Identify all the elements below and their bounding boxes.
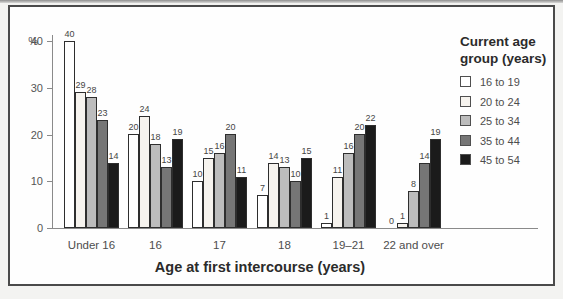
legend-entries: 16 to 1920 to 2425 to 3435 to 4445 to 54: [460, 76, 555, 166]
bar: [419, 163, 430, 228]
bar-value-label: 22: [360, 113, 382, 124]
bar: [203, 158, 214, 228]
legend-label: 16 to 19: [480, 76, 520, 88]
bar: [192, 181, 203, 228]
legend-entry: 45 to 54: [460, 154, 555, 166]
bar: [290, 181, 301, 228]
bar: [161, 167, 172, 228]
bar: [236, 177, 247, 228]
x-axis-title: Age at first intercourse (years): [105, 259, 415, 275]
bar: [128, 134, 139, 228]
y-tick-mark: [47, 135, 53, 136]
bar: [64, 41, 75, 228]
bar: [225, 134, 236, 228]
legend-swatch: [460, 115, 471, 126]
legend-swatch: [460, 96, 471, 107]
y-tick-label: 10: [12, 174, 43, 188]
legend-label: 20 to 24: [480, 96, 520, 108]
y-tick-label: 40: [12, 34, 43, 48]
bar-value-label: 20: [220, 122, 242, 133]
figure-frame: % 010203040 4029282314202418131910151620…: [8, 5, 555, 286]
bar: [214, 153, 225, 228]
legend-swatch: [460, 76, 471, 87]
bar-value-label: 14: [103, 151, 125, 162]
y-tick-label: 0: [12, 221, 43, 235]
legend-entry: 16 to 19: [460, 76, 555, 88]
bar: [172, 139, 183, 228]
bar: [97, 120, 108, 228]
bar-value-label: 13: [274, 155, 296, 166]
legend-label: 35 to 44: [480, 135, 520, 147]
bar-value-label: 11: [231, 165, 253, 176]
y-tick-mark: [47, 181, 53, 182]
bar-value-label: 19: [425, 127, 447, 138]
scanned-figure-page: % 010203040 4029282314202418131910151620…: [0, 0, 563, 299]
x-axis-baseline: [52, 228, 538, 229]
bar: [321, 223, 332, 228]
bar-value-label: 15: [296, 146, 318, 157]
legend-title: Current age group (years): [460, 33, 555, 67]
bar-value-label: 19: [167, 127, 189, 138]
bar: [397, 223, 408, 228]
bar-value-label: 18: [145, 132, 167, 143]
bar: [430, 139, 441, 228]
bar: [257, 195, 268, 228]
legend-title-line-2: group (years): [460, 50, 555, 67]
bar: [108, 163, 119, 228]
bar-value-label: 40: [59, 29, 81, 40]
bar: [408, 191, 419, 228]
bar: [365, 125, 376, 228]
legend-entry: 20 to 24: [460, 96, 555, 108]
category-label: 22 and over: [369, 239, 459, 251]
bar: [343, 153, 354, 228]
y-tick-mark: [47, 88, 53, 89]
bar: [75, 92, 86, 228]
legend-label: 25 to 34: [480, 115, 520, 127]
legend-title-line-1: Current age: [460, 33, 555, 50]
y-tick-mark: [47, 41, 53, 42]
bar: [301, 158, 312, 228]
y-tick-label: 20: [12, 128, 43, 142]
bar-value-label: 28: [81, 85, 103, 96]
legend-swatch: [460, 135, 471, 146]
bar-value-label: 24: [134, 104, 156, 115]
legend-label: 45 to 54: [480, 154, 520, 166]
y-tick-label: 30: [12, 81, 43, 95]
bar: [268, 163, 279, 228]
bar: [354, 134, 365, 228]
bar: [332, 177, 343, 228]
legend-entry: 25 to 34: [460, 115, 555, 127]
legend-entry: 35 to 44: [460, 135, 555, 147]
y-axis-line: [52, 35, 53, 229]
y-tick-mark: [47, 228, 53, 229]
scan-edge-artifact: [0, 0, 563, 3]
legend: Current age group (years) 16 to 1920 to …: [460, 33, 555, 174]
legend-swatch: [460, 154, 471, 165]
bar-value-label: 23: [92, 108, 114, 119]
